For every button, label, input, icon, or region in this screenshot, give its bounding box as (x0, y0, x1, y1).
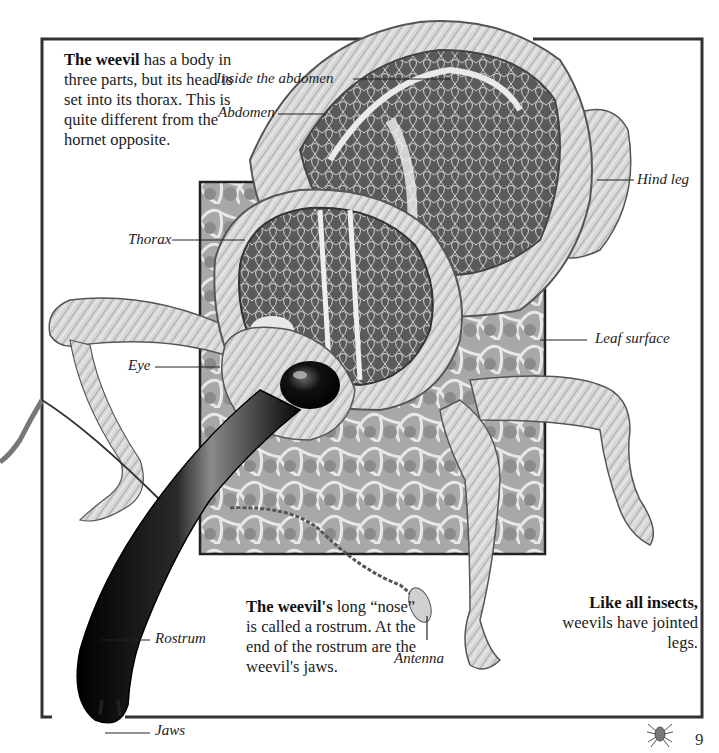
intro-text: The weevil has a body in three parts, bu… (64, 50, 239, 150)
label-rostrum: Rostrum (155, 630, 206, 647)
label-hind-leg: Hind leg (637, 171, 689, 188)
legs-text-bold: Like all insects, (589, 593, 698, 612)
intro-text-bold: The weevil (64, 50, 140, 69)
rostrum-text-bold: The weevil's (246, 597, 333, 616)
label-eye: Eye (128, 357, 150, 374)
label-antenna: Antenna (394, 650, 444, 667)
label-jaws: Jaws (155, 722, 185, 739)
eye-graphic (280, 361, 340, 409)
label-inside-abdomen: Inside the abdomen (216, 70, 333, 87)
label-leaf-surface: Leaf surface (595, 330, 670, 347)
book-page: The weevil has a body in three parts, bu… (0, 0, 719, 753)
label-abdomen: Abdomen (218, 104, 275, 121)
legs-text: Like all insects, weevils have jointed l… (560, 593, 698, 653)
legs-text-rest: weevils have jointed legs. (562, 613, 698, 652)
label-thorax: Thorax (128, 231, 171, 248)
page-number: 9 (695, 730, 704, 750)
spider-icon (647, 724, 673, 747)
